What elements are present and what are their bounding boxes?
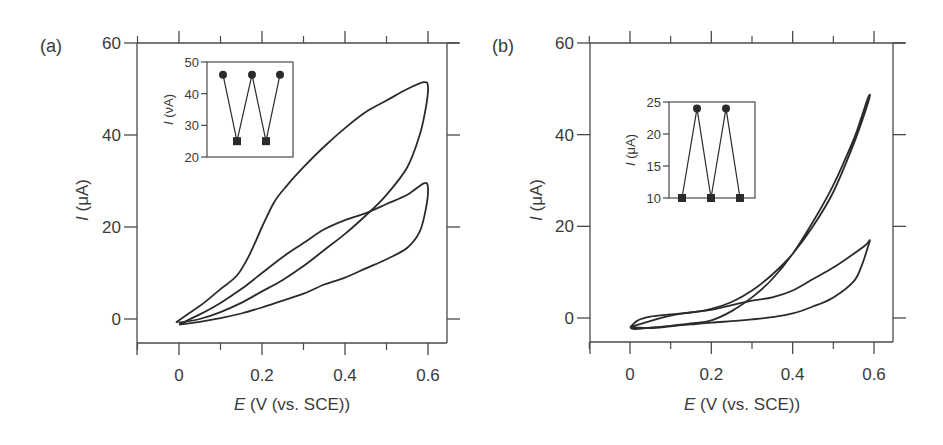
inset-circle-marker — [693, 104, 701, 112]
y-tick-label: 60 — [102, 34, 121, 53]
x-tick-label: 0 — [174, 366, 183, 385]
inset-frame — [669, 102, 755, 198]
panel-a-y-axis-unit: (μA) — [73, 179, 92, 216]
y-tick-label: 20 — [102, 218, 121, 237]
x-tick-label: 0 — [625, 365, 634, 384]
panel-b-label: (b) — [492, 36, 514, 56]
inset-square-marker — [707, 194, 715, 202]
inset-y-tick-label: 30 — [185, 118, 199, 133]
inset-y-axis-title: I (νA) — [161, 94, 176, 125]
x-tick-label: 0.6 — [862, 365, 886, 384]
y-tick-label: 0 — [112, 310, 121, 329]
inset-y-axis-unit: (νA) — [161, 94, 176, 121]
panel-b-y-axis-unit: (μA) — [527, 179, 546, 216]
x-tick-label: 0.4 — [333, 366, 357, 385]
inset-circle-marker — [276, 71, 284, 79]
inset-square-marker — [262, 137, 270, 145]
x-tick-label: 0.2 — [250, 366, 274, 385]
inset-y-tick-label: 20 — [647, 127, 661, 142]
panel-b-x-axis-unit: (V (vs. SCE)) — [695, 395, 800, 414]
panel-b-x-axis-symbol: E — [684, 395, 696, 414]
x-tick-label: 0.6 — [416, 366, 440, 385]
inset-circle-marker — [219, 71, 227, 79]
inset-y-axis-unit: (μA) — [623, 134, 638, 162]
panel-a-y-axis-title: I (μA) — [73, 179, 92, 221]
inset-square-marker — [233, 137, 241, 145]
panel-b-chart: (b) 00.20.40.60204060 10152025I (μA) E (… — [492, 31, 906, 414]
panel-a-x-axis-symbol: E — [234, 395, 246, 414]
x-tick-label: 0.2 — [700, 365, 724, 384]
panel-a-chart: (a) 00.20.40.60204060 20304050I (νA) E (… — [40, 31, 460, 414]
inset-y-tick-label: 25 — [647, 95, 661, 110]
inset-square-marker — [736, 194, 744, 202]
cv-curve-2 — [179, 183, 428, 325]
inset-square-marker — [678, 194, 686, 202]
x-tick-label: 0.4 — [781, 365, 805, 384]
panel-a-x-axis-title: E (V (vs. SCE)) — [234, 395, 350, 414]
y-tick-label: 0 — [565, 309, 574, 328]
inset-y-axis-title: I (μA) — [623, 134, 638, 166]
panel-b-x-axis-title: E (V (vs. SCE)) — [684, 395, 800, 414]
figure-canvas: (a) 00.20.40.60204060 20304050I (νA) E (… — [0, 0, 943, 445]
y-tick-label: 60 — [555, 34, 574, 53]
panel-a-label: (a) — [40, 36, 62, 56]
inset-y-tick-label: 20 — [185, 150, 199, 165]
inset-y-tick-label: 10 — [647, 191, 661, 206]
panel-b-inset: 10152025I (μA) — [623, 95, 755, 206]
panel-a-x-axis-unit: (V (vs. SCE)) — [245, 395, 350, 414]
inset-circle-marker — [722, 104, 730, 112]
inset-y-tick-label: 40 — [185, 87, 199, 102]
y-tick-label: 40 — [102, 126, 121, 145]
y-tick-label: 20 — [555, 217, 574, 236]
panel-b-y-axis-title: I (μA) — [527, 179, 546, 221]
inset-y-tick-label: 15 — [647, 159, 661, 174]
panel-b-axis-ticks: 00.20.40.60204060 — [555, 31, 906, 384]
y-tick-label: 40 — [555, 126, 574, 145]
panel-a-inset: 20304050I (νA) — [161, 55, 293, 165]
inset-circle-marker — [248, 71, 256, 79]
inset-y-tick-label: 50 — [185, 55, 199, 70]
